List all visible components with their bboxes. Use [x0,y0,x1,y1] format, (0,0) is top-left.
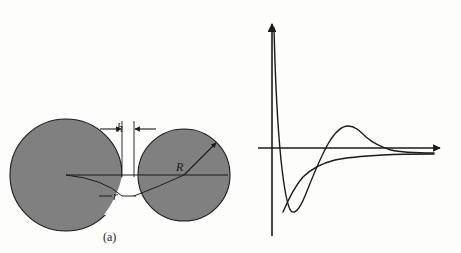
panel-a-spheres: h R r (a) [0,0,231,253]
gap-label-h: h [117,122,123,134]
radius-label-R: R [176,161,183,173]
figure-container: h R r (a) U(h) h 稳定 不稳定 (b) [0,0,461,253]
unstable-potential-curve [283,154,434,212]
panel-b-drawing [231,0,461,253]
contact-radius-label-r: r [113,190,118,202]
panel-b-potential-chart: U(h) h 稳定 不稳定 (b) [231,0,461,253]
panel-a-caption: (a) [103,231,116,243]
panel-a-drawing [0,0,231,253]
